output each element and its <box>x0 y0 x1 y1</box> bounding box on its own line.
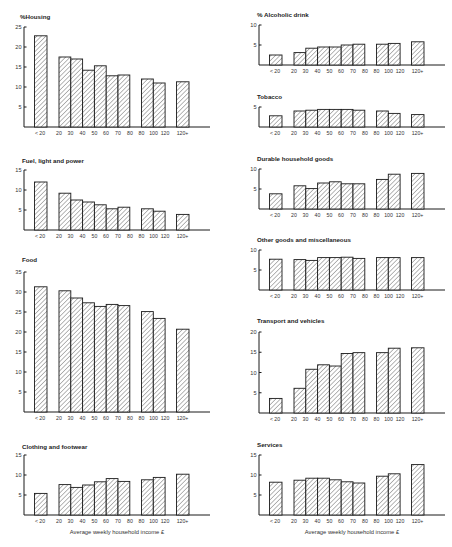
y-tick-label: 5 <box>253 492 256 498</box>
bar-100-120 <box>388 348 400 413</box>
bar-20-30 <box>59 57 71 127</box>
x-tick-label: 40 <box>80 415 86 421</box>
x-tick-label: 30 <box>303 212 309 218</box>
x-tick-label: 30 <box>303 293 309 299</box>
panel-other-goods-and-miscellaneous: Other goods and miscellaneous510< 202030… <box>250 236 445 299</box>
bar-30-40 <box>71 487 83 515</box>
bar-120plus <box>412 465 425 515</box>
x-tick-label: 70 <box>350 293 356 299</box>
bar-40-50 <box>318 258 330 290</box>
x-tick-label: 120+ <box>412 130 424 136</box>
bar-30-40 <box>306 369 318 413</box>
y-tick-label: 15 <box>15 452 21 458</box>
x-tick-label: 120 <box>396 68 405 74</box>
bar-80-100 <box>377 353 389 413</box>
bar-40-50 <box>318 109 330 127</box>
y-tick-label: 10 <box>250 472 256 478</box>
x-tick-label: 60 <box>103 518 109 524</box>
x-tick-label: 70 <box>115 518 121 524</box>
x-tick-label: 120 <box>396 212 405 218</box>
x-tick-label: 20 <box>291 293 297 299</box>
bar-50-60 <box>329 366 341 413</box>
y-tick-label: 15 <box>250 349 256 355</box>
x-tick-label: 50 <box>327 416 333 422</box>
bar-30-40 <box>306 260 318 290</box>
x-tick-label: 100 <box>149 518 158 524</box>
x-tick-label: 120 <box>161 233 170 239</box>
x-tick-label: 70 <box>350 68 356 74</box>
x-tick-label: 30 <box>68 130 74 136</box>
x-tick-label: < 20 <box>35 130 45 136</box>
bar-50-60 <box>329 109 341 127</box>
x-tick-label: 20 <box>291 130 297 136</box>
bar-70-80 <box>118 207 130 230</box>
y-tick-label: 5 <box>18 389 21 395</box>
bar-120plus <box>177 214 190 230</box>
x-tick-label: 30 <box>303 518 309 524</box>
bar--20 <box>35 287 48 412</box>
panel-services: Services51015< 2020304050607080801001201… <box>250 441 445 535</box>
x-tick-label: 80 <box>362 130 368 136</box>
y-tick-label: 10 <box>15 369 21 375</box>
x-tick-label: 120 <box>161 130 170 136</box>
x-tick-label: 50 <box>92 518 98 524</box>
x-tick-label: 50 <box>327 212 333 218</box>
x-tick-label: 20 <box>56 518 62 524</box>
x-tick-label: 60 <box>103 233 109 239</box>
x-tick-label: 50 <box>327 130 333 136</box>
y-tick-label: 10 <box>250 247 256 253</box>
x-tick-label: 80 <box>374 130 380 136</box>
y-tick-label: 15 <box>15 349 21 355</box>
y-tick-label: 30 <box>15 289 21 295</box>
x-tick-label: 30 <box>68 518 74 524</box>
x-tick-label: 120 <box>396 293 405 299</box>
x-tick-label: 70 <box>350 130 356 136</box>
bar-70-80 <box>353 258 365 290</box>
x-tick-label: 80 <box>374 518 380 524</box>
bar-50-60 <box>329 258 341 290</box>
x-tick-label: < 20 <box>270 212 280 218</box>
y-tick-label: 20 <box>15 329 21 335</box>
bar-100-120 <box>153 211 165 230</box>
x-tick-label: 40 <box>315 130 321 136</box>
x-tick-label: 70 <box>115 233 121 239</box>
bar-20-30 <box>294 53 306 65</box>
y-tick-label: 5 <box>253 267 256 273</box>
bar-20-30 <box>294 186 306 209</box>
bar-20-30 <box>59 291 71 412</box>
bar-30-40 <box>306 48 318 65</box>
x-tick-label: 20 <box>291 518 297 524</box>
x-tick-label: 100 <box>384 212 393 218</box>
x-tick-label: 120 <box>161 518 170 524</box>
bar-80-100 <box>142 79 154 127</box>
x-tick-label: 60 <box>338 130 344 136</box>
x-tick-label: 40 <box>315 518 321 524</box>
x-tick-label: 50 <box>327 518 333 524</box>
bar-30-40 <box>306 478 318 515</box>
bar--20 <box>35 493 48 515</box>
bar-50-60 <box>329 47 341 65</box>
x-tick-label: 80 <box>139 415 145 421</box>
x-tick-label: 80 <box>362 518 368 524</box>
x-axis-label: Average weekly household income £ <box>305 529 400 535</box>
x-tick-label: 20 <box>291 68 297 74</box>
x-tick-label: 50 <box>327 293 333 299</box>
x-tick-label: 50 <box>92 415 98 421</box>
x-tick-label: 120 <box>396 130 405 136</box>
y-tick-label: 5 <box>18 207 21 213</box>
x-tick-label: 100 <box>384 293 393 299</box>
bar-50-60 <box>94 66 106 127</box>
panel-title: Other goods and miscellaneous <box>257 236 351 243</box>
panel-alcoholic-drink: % Alcoholic drink510< 202030405060708080… <box>250 11 445 74</box>
bar-20-30 <box>294 388 306 413</box>
y-tick-label: 20 <box>15 44 21 50</box>
panel-title: Transport and vehicles <box>257 317 325 324</box>
y-tick-label: 5 <box>18 492 21 498</box>
bar-70-80 <box>353 110 365 127</box>
bar-30-40 <box>71 59 83 127</box>
x-tick-label: 60 <box>338 212 344 218</box>
x-tick-label: 20 <box>291 212 297 218</box>
bar-100-120 <box>388 43 400 65</box>
bar--20 <box>35 36 48 127</box>
x-tick-label: 30 <box>68 233 74 239</box>
